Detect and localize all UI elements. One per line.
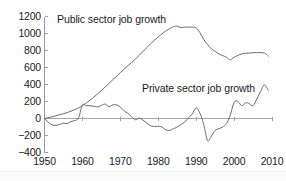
chart-container: 120010008006004002000−200−400 1950196019… [0, 0, 286, 181]
public-sector-series-label: Public sector job growth [57, 14, 166, 25]
y-tick-label: 200 [1, 96, 41, 106]
x-tick-label: 1960 [71, 156, 94, 167]
x-tick-label: 2010 [261, 156, 284, 167]
private-sector-series-label: Private sector job growth [142, 83, 255, 94]
y-tick-label: 0 [1, 113, 41, 123]
y-tick-label: 400 [1, 79, 41, 89]
y-axis-ticks [45, 17, 49, 153]
y-tick-label: 1000 [1, 28, 41, 38]
y-tick-label: 800 [1, 45, 41, 55]
x-tick-label: 2000 [223, 156, 246, 167]
x-tick-label: 1980 [147, 156, 170, 167]
x-tick-label: 1950 [33, 156, 56, 167]
y-tick-label: 600 [1, 62, 41, 72]
y-tick-label: 1200 [1, 11, 41, 21]
public-sector-series-line [45, 26, 269, 118]
y-tick-label: −200 [1, 130, 41, 140]
x-tick-label: 1970 [109, 156, 132, 167]
x-tick-label: 1990 [185, 156, 208, 167]
